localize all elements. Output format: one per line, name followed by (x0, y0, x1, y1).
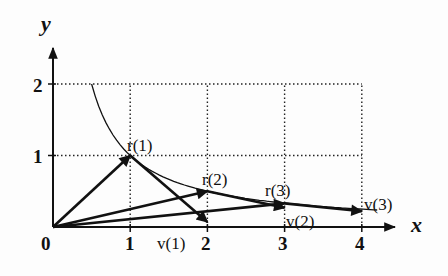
x-tick-1: 1 (125, 233, 135, 254)
x-tick-3: 3 (278, 233, 288, 254)
vector-v3 (285, 203, 362, 211)
vector-r3 (53, 203, 285, 227)
x-tick-0: 0 (41, 233, 51, 254)
label-v1: v(1) (157, 234, 185, 253)
x-tick-4: 4 (355, 233, 365, 254)
vector-diagram: y x 2 1 0 1 2 3 4 r(1) v(1) r(2) v(2) r(… (0, 0, 448, 276)
label-v3: v(3) (364, 195, 392, 214)
x-tick-2: 2 (201, 233, 211, 254)
diagram-canvas: y x 2 1 0 1 2 3 4 r(1) v(1) r(2) v(2) r(… (0, 0, 448, 276)
x-axis-label: x (410, 212, 422, 237)
label-r2: r(2) (202, 170, 227, 189)
label-r1: r(1) (127, 136, 152, 155)
y-tick-2: 2 (33, 75, 43, 96)
y-axis-label: y (38, 11, 51, 36)
label-r3: r(3) (265, 181, 290, 200)
tick-marks (48, 84, 362, 232)
vector-r1 (53, 156, 130, 228)
y-tick-1: 1 (33, 146, 43, 167)
label-v2: v(2) (286, 212, 314, 231)
